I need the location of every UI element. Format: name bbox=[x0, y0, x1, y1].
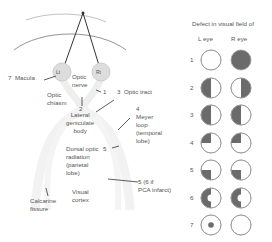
calcarine-label: Calcarine fissure bbox=[30, 197, 56, 213]
right-eye-field-icon bbox=[231, 188, 251, 208]
defect-row: 6 bbox=[180, 187, 272, 209]
defect-row: 3 bbox=[180, 104, 272, 126]
right-eye bbox=[92, 63, 110, 81]
right-eye-field-icon bbox=[231, 160, 251, 180]
defect-row: 5 bbox=[180, 159, 272, 181]
optic-chiasm-label: Optic chiasm bbox=[47, 91, 67, 107]
defect-row: 2 bbox=[180, 77, 272, 99]
left-eye-field-icon bbox=[201, 50, 221, 70]
right-eye-field-icon bbox=[231, 105, 251, 125]
left-eye-field-icon bbox=[201, 160, 221, 180]
optic-tract-label: 3 Optic tract bbox=[117, 88, 152, 96]
col-left-eye: L eye bbox=[198, 35, 213, 43]
right-eye-field-icon bbox=[231, 133, 251, 153]
defects-title: Defect in visual field of bbox=[192, 20, 254, 28]
optic-nerve-label: Optic nerve bbox=[72, 73, 87, 89]
col-right-eye: R eye bbox=[231, 35, 247, 43]
defect-row: 4 bbox=[180, 132, 272, 154]
right-eye-field-icon bbox=[231, 50, 251, 70]
right-eye-field-icon bbox=[231, 215, 251, 235]
pca-label: 5 (6 if PCA infarct) bbox=[138, 178, 171, 194]
lesion-1-label: 1 bbox=[103, 88, 106, 96]
lgb-label: Lateral geniculate body bbox=[66, 111, 94, 135]
defect-row: 1 bbox=[180, 49, 272, 71]
right-eye-field-icon bbox=[231, 78, 251, 98]
left-eye-field-icon bbox=[201, 105, 221, 125]
right-eye-label: Rt bbox=[96, 68, 101, 76]
lesion-5-label: 5 bbox=[103, 145, 106, 153]
left-eye-field-icon bbox=[201, 188, 221, 208]
defect-row: 7 bbox=[180, 214, 272, 236]
visual-cortex-label: Visual cortex bbox=[72, 188, 89, 204]
meyer-loop-label: 4 Meyer loop (temporal lobe) bbox=[136, 105, 162, 145]
dorsal-radiation-label: Dorsal optic radiation (parietal lobe) bbox=[66, 145, 99, 177]
left-eye-field-icon bbox=[201, 133, 221, 153]
left-eye-field-icon bbox=[201, 78, 221, 98]
macula-label: 7 Macula bbox=[8, 74, 35, 82]
visual-field-arc bbox=[14, 34, 126, 50]
left-eye-field-icon bbox=[201, 215, 221, 235]
left-eye-label: Lt bbox=[56, 68, 60, 76]
